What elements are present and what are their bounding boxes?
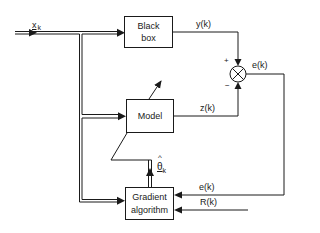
feedback-error-label: e(k) bbox=[199, 183, 215, 192]
reference-arrowhead-icon bbox=[174, 207, 182, 214]
theta-subscript: k bbox=[163, 167, 167, 174]
parameter-estimate-label: ^ θk bbox=[157, 161, 166, 174]
gradient-algorithm-block: Gradient algorithm bbox=[125, 187, 174, 220]
adjustable-model-arrow bbox=[149, 81, 161, 99]
plus-sign: + bbox=[224, 57, 229, 65]
black-box-block: Black box bbox=[124, 16, 173, 48]
model-block: Model bbox=[126, 99, 174, 133]
input-symbol: x bbox=[32, 20, 37, 30]
model-output-label: z(k) bbox=[200, 104, 215, 113]
theta-hat: ^ bbox=[158, 153, 162, 162]
input-signal-label: xk bbox=[32, 20, 41, 31]
error-arrowhead-icon bbox=[174, 192, 182, 199]
black-box-line1: Black bbox=[137, 20, 159, 32]
bus-to-model bbox=[82, 115, 118, 119]
reference-label: R(k) bbox=[200, 198, 217, 207]
vertical-input-bus bbox=[80, 34, 83, 202]
bus-to-black-box bbox=[37, 32, 118, 35]
summer-error-label: e(k) bbox=[252, 61, 268, 70]
parameter-arrowhead-icon bbox=[146, 168, 154, 176]
plant-output-label: y(k) bbox=[196, 20, 211, 29]
gradient-line2: algorithm bbox=[131, 204, 168, 216]
minus-sign: − bbox=[225, 82, 230, 90]
model-input-arrowhead-icon bbox=[118, 112, 126, 120]
black-box-line2: box bbox=[137, 32, 159, 44]
minus-input-arrowhead-icon bbox=[235, 82, 242, 89]
bus-to-gradient bbox=[80, 200, 119, 203]
plus-input-arrowhead-icon bbox=[235, 59, 242, 66]
error-feedback-line bbox=[181, 74, 284, 195]
input-subscript: k bbox=[38, 24, 42, 31]
gradient-input-arrowhead-icon bbox=[117, 197, 125, 205]
model-label: Model bbox=[138, 110, 163, 122]
parameter-to-model-line bbox=[111, 133, 152, 160]
gradient-line1: Gradient bbox=[131, 191, 168, 203]
summing-junction bbox=[230, 66, 246, 82]
